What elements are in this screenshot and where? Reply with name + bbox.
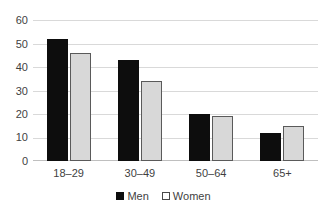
x-axis-tick-label: 30–49 xyxy=(104,166,175,182)
legend-label: Women xyxy=(173,190,211,202)
y-axis: 0 10 20 30 40 50 60 xyxy=(0,20,28,161)
bar-women xyxy=(283,126,304,161)
bar-chart: 0 10 20 30 40 50 60 xyxy=(0,0,327,212)
plot-area xyxy=(33,20,318,161)
x-axis-tick-label: 50–64 xyxy=(176,166,247,182)
legend-label: Men xyxy=(127,190,148,202)
bar-group xyxy=(33,20,104,161)
y-axis-tick-label: 30 xyxy=(16,85,28,96)
bar-group xyxy=(104,20,175,161)
bar-women xyxy=(212,116,233,161)
x-axis-tick-label: 18–29 xyxy=(33,166,104,182)
bar-pair xyxy=(247,20,318,161)
bar-women xyxy=(141,81,162,161)
bar-men xyxy=(47,39,68,161)
y-axis-tick-label: 40 xyxy=(16,61,28,72)
x-axis: 18–29 30–49 50–64 65+ xyxy=(33,166,318,182)
bar-groups xyxy=(33,20,318,161)
bar-pair xyxy=(104,20,175,161)
bar-pair xyxy=(33,20,104,161)
bar-pair xyxy=(176,20,247,161)
legend-item-women: Women xyxy=(162,190,211,202)
chart-legend: Men Women xyxy=(0,190,327,202)
x-axis-tick-label: 65+ xyxy=(247,166,318,182)
legend-item-men: Men xyxy=(116,190,148,202)
bar-women xyxy=(70,53,91,161)
bar-group xyxy=(247,20,318,161)
bar-men xyxy=(118,60,139,161)
bar-men xyxy=(189,114,210,161)
bar-group xyxy=(176,20,247,161)
y-axis-tick-label: 0 xyxy=(22,156,28,167)
bar-men xyxy=(260,133,281,161)
legend-swatch-icon xyxy=(116,192,124,200)
y-axis-tick-label: 50 xyxy=(16,38,28,49)
y-axis-tick-label: 20 xyxy=(16,109,28,120)
y-axis-tick-label: 60 xyxy=(16,15,28,26)
legend-swatch-icon xyxy=(162,192,170,200)
y-axis-tick-label: 10 xyxy=(16,132,28,143)
